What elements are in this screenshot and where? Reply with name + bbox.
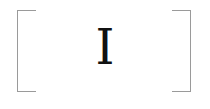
symbol-card: I bbox=[0, 0, 210, 109]
right-bracket bbox=[172, 10, 191, 92]
